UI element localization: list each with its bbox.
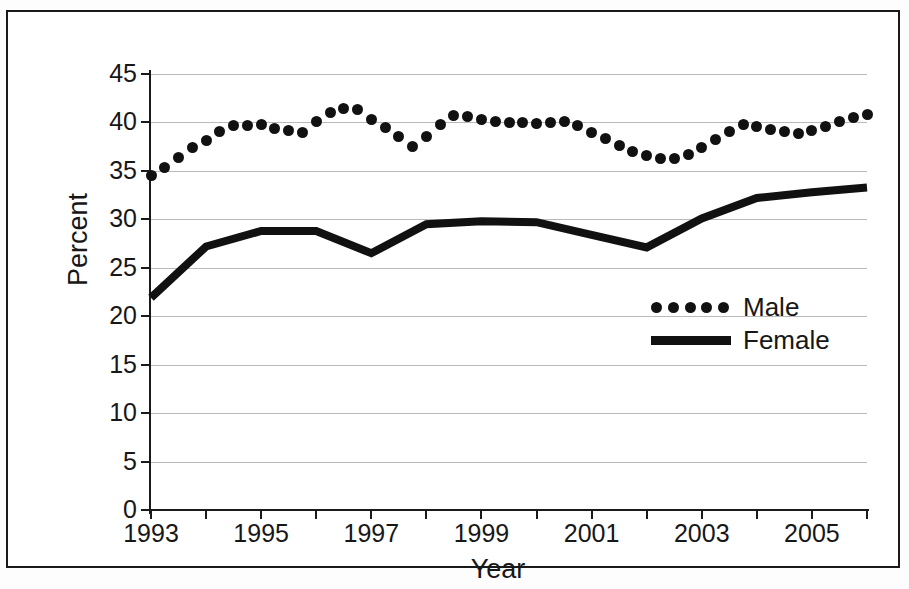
figure-border: 051015202530354045 199319951997199920012… — [6, 10, 900, 568]
y-tick-label: 25 — [91, 255, 137, 280]
x-tick-mark — [646, 510, 648, 519]
y-tick-mark — [141, 121, 150, 123]
x-tick-mark — [811, 510, 813, 519]
x-tick-mark — [370, 510, 372, 519]
x-tick-label: 1995 — [206, 521, 316, 546]
legend-label-male: Male — [743, 294, 799, 320]
legend-swatch-solid — [647, 329, 733, 351]
x-tick-mark — [756, 510, 758, 519]
x-tick-label: 2003 — [647, 521, 757, 546]
y-tick-mark — [141, 73, 150, 75]
y-tick-label: 45 — [91, 61, 137, 86]
x-tick-mark — [536, 510, 538, 519]
y-tick-label: 5 — [91, 449, 137, 474]
y-tick-mark — [141, 364, 150, 366]
y-tick-mark — [141, 218, 150, 220]
x-tick-mark — [315, 510, 317, 519]
y-tick-label: 35 — [91, 158, 137, 183]
x-tick-mark — [591, 510, 593, 519]
x-tick-label: 1999 — [426, 521, 536, 546]
x-tick-mark — [480, 510, 482, 519]
y-tick-label: 15 — [91, 352, 137, 377]
x-tick-label: 2001 — [537, 521, 647, 546]
y-axis-label: Percent — [63, 110, 94, 370]
y-tick-mark — [141, 170, 150, 172]
x-tick-label: 2005 — [757, 521, 867, 546]
x-tick-mark — [425, 510, 427, 519]
x-tick-mark — [701, 510, 703, 519]
legend-label-female: Female — [743, 327, 830, 353]
y-tick-label: 10 — [91, 400, 137, 425]
x-tick-mark — [205, 510, 207, 519]
chart-legend: Male Female — [647, 290, 857, 356]
y-tick-label: 30 — [91, 206, 137, 231]
x-tick-mark — [260, 510, 262, 519]
y-tick-label: 20 — [91, 303, 137, 328]
legend-item-female: Female — [647, 323, 857, 356]
y-tick-mark — [141, 509, 150, 511]
x-tick-label: 1997 — [316, 521, 426, 546]
x-axis-label: Year — [398, 554, 598, 585]
x-tick-mark — [150, 510, 152, 519]
x-tick-mark — [866, 510, 868, 519]
y-tick-mark — [141, 315, 150, 317]
x-tick-label: 1993 — [96, 521, 206, 546]
legend-swatch-dotted — [647, 296, 733, 318]
y-tick-label: 40 — [91, 109, 137, 134]
legend-item-male: Male — [647, 290, 857, 323]
y-tick-mark — [141, 267, 150, 269]
y-tick-mark — [141, 412, 150, 414]
chart-figure: 051015202530354045 199319951997199920012… — [0, 0, 909, 589]
y-tick-mark — [141, 461, 150, 463]
